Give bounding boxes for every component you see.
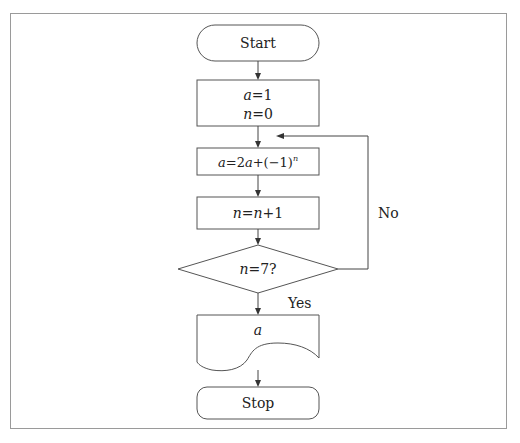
update-a-label: a=2a+(−1)n <box>197 155 319 169</box>
arrow-down-icon <box>255 73 261 80</box>
arrow-left-icon <box>276 133 284 139</box>
init-line-1: a=1 <box>197 88 319 102</box>
start-label: Start <box>197 36 319 50</box>
output-label: a <box>197 323 319 337</box>
flowchart-diagram <box>0 0 520 443</box>
arrow-down-icon <box>255 380 261 387</box>
decision-label: n=7? <box>198 262 318 276</box>
increment-label: n=n+1 <box>197 206 319 220</box>
stop-label: Stop <box>197 396 319 410</box>
init-line-2: n=0 <box>197 107 319 121</box>
arrow-down-icon <box>255 308 261 315</box>
no-edge-label: No <box>378 206 399 220</box>
arrow-down-icon <box>255 141 261 148</box>
arrow-down-icon <box>255 238 261 245</box>
arrow-down-icon <box>255 190 261 197</box>
yes-edge-label: Yes <box>288 296 312 310</box>
